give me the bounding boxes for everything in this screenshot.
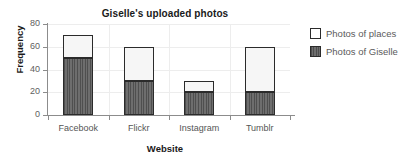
x-tick-mark: [109, 116, 110, 120]
bar-stack[interactable]: [184, 24, 214, 115]
y-tick-mark: [43, 24, 47, 25]
bar-segment[interactable]: [124, 81, 154, 115]
bar-segment[interactable]: [245, 92, 275, 115]
chart-figure: Giselle's uploaded photos Frequency Webs…: [0, 0, 418, 163]
x-tick-label: Tumblr: [220, 123, 300, 133]
legend-item-label: Photos of places: [326, 28, 396, 39]
bar-segment[interactable]: [245, 47, 275, 93]
bar-stack[interactable]: [124, 24, 154, 115]
bar-segment[interactable]: [124, 47, 154, 81]
bar-segment[interactable]: [63, 35, 93, 58]
x-axis-title: Website: [40, 143, 290, 154]
y-tick-label: 20: [16, 87, 40, 96]
gridline-vertical: [230, 24, 231, 115]
x-tick-mark: [230, 116, 231, 120]
y-tick-label: 0: [16, 110, 40, 119]
y-tick-mark: [43, 92, 47, 93]
y-tick-label: 60: [16, 42, 40, 51]
bar-segment[interactable]: [63, 58, 93, 115]
bar-stack[interactable]: [245, 24, 275, 115]
plot-area: [48, 24, 290, 115]
white-square-icon: [310, 28, 321, 39]
legend-item[interactable]: Photos of Giselle: [310, 42, 416, 60]
chart-title: Giselle's uploaded photos: [40, 8, 290, 19]
x-tick-mark: [169, 116, 170, 120]
y-tick-label: 40: [16, 65, 40, 74]
y-tick-mark: [43, 47, 47, 48]
bar-segment[interactable]: [184, 92, 214, 115]
x-tick-mark: [290, 116, 291, 120]
y-tick-label: 80: [16, 19, 40, 28]
legend-item-label: Photos of Giselle: [326, 46, 398, 57]
gridline-vertical: [109, 24, 110, 115]
gridline-vertical: [169, 24, 170, 115]
x-axis-line: [47, 115, 295, 116]
legend-item[interactable]: Photos of places: [310, 24, 416, 42]
chart-legend: Photos of placesPhotos of Giselle: [310, 24, 416, 60]
dark-hatched-square-icon: [310, 46, 321, 57]
y-tick-mark: [43, 115, 47, 116]
bar-stack[interactable]: [63, 24, 93, 115]
bar-segment[interactable]: [184, 81, 214, 92]
x-tick-mark: [48, 116, 49, 120]
y-tick-mark: [43, 70, 47, 71]
